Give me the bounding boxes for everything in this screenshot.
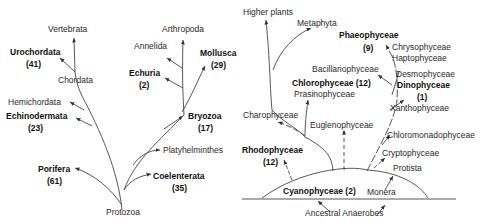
label-euglenophyceae: Euglenophyceae [310,120,373,130]
label-cryptophyceae: Cryptophyceae [382,148,439,158]
label-urochordata: Urochordata [10,47,61,57]
count-rhodophyceae: (12) [263,157,278,167]
label-echinodermata: Echinodermata [6,111,67,121]
count-mollusca: (29) [211,60,226,70]
label-coelenterata: Coelenterata [153,171,205,181]
phylogeny-diagram: Vertebrata Urochordata (41) Chordata Hem… [0,0,486,223]
label-chloromonadophyceae: Chloromonadophyceae [387,130,475,140]
branch-metaphyta [273,28,311,70]
count-echinodermata: (23) [28,123,43,133]
label-cyanophyceae: Cyanophyceae (2) [283,186,356,196]
label-annelida: Annelida [134,41,167,51]
label-arthropoda: Arthropoda [162,24,204,34]
branch-coelenterata [124,174,151,190]
count-bryozoa: (17) [198,123,213,133]
branch-platyhelminthes [133,150,160,165]
count-dinophyceae: (1) [417,92,427,102]
label-rhodophyceae: Rhodophyceae [242,145,303,155]
label-prasinophyceae: Prasinophyceae [294,89,355,99]
branch-echinodermata [76,118,92,126]
count-phaeophyceae: (9) [363,43,373,53]
label-desmophyceae: Desmophyceae [396,69,455,79]
label-metaphyta: Metaphyta [297,18,337,28]
label-ancestral-anaerobes: Ancestral Anaerobes [305,208,383,218]
count-echuria: (2) [139,80,149,90]
branch-cryptophyceae [374,158,385,168]
label-chlorophyceae: Chlorophyceae (12) [292,78,371,88]
main-trunk-left [75,72,122,210]
label-hemichordata: Hemichordata [8,97,61,107]
label-chrysophyceae: Chrysophyceae [392,42,451,52]
label-porifera: Porifera [38,164,70,174]
label-xanthophyceae: Xanthophyceae [390,103,449,113]
branch-bryozoa [164,116,183,129]
label-vertebrata: Vertebrata [48,24,87,34]
branch-mollusca [182,66,205,112]
label-protozoa: Protozoa [106,207,140,217]
label-mollusca: Mollusca [200,48,236,58]
branch-vertebrata [74,38,75,72]
branch-bacillariophyceae [378,75,392,85]
branch-urochordata [60,58,75,72]
branch-arthropoda [124,40,184,190]
count-porifera: (61) [47,176,62,186]
label-charophyceae: Charophyceae [243,110,298,120]
label-haptophyceae: Haptophyceae [392,53,447,63]
label-platyhelminthes: Platyhelminthes [163,145,223,155]
branch-rhodophyceae [284,160,292,180]
label-bacillariophyceae: Bacillariophyceae [312,64,379,74]
label-monera: Monera [367,187,396,197]
label-bryozoa: Bryozoa [188,111,222,121]
branch-echuria [165,78,183,88]
label-phaeophyceae: Phaeophyceae [339,30,399,40]
branch-charophyceae [278,122,305,136]
branch-hemichordata [70,102,84,110]
count-urochordata: (41) [26,59,41,69]
branch-prasinophyceae [305,100,308,136]
count-coelenterata: (35) [172,183,187,193]
label-higher-plants: Higher plants [243,7,293,17]
label-echuria: Echuria [129,68,160,78]
branch-annelida [167,58,182,68]
label-chordata: Chordata [58,75,93,85]
label-dinophyceae: Dinophyceae [397,80,450,90]
label-protista: Protista [393,163,422,173]
